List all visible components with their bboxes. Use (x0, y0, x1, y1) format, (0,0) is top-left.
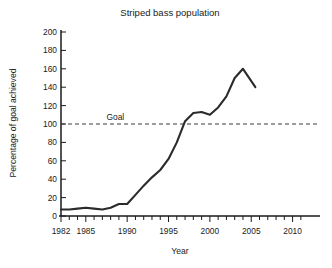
y-tick-label: 20 (48, 193, 58, 203)
y-tick-label: 100 (43, 119, 57, 129)
chart-container: Striped bass population Percentage of go… (0, 0, 332, 268)
x-tick-label: 1982 (52, 226, 71, 236)
y-tick-label: 80 (48, 137, 58, 147)
y-tick-label: 40 (48, 174, 58, 184)
x-tick-label: 1985 (76, 226, 95, 236)
x-tick-label: 1995 (159, 226, 178, 236)
y-tick-label: 160 (43, 64, 57, 74)
goal-line-label: Goal (106, 112, 124, 122)
striped-bass-population-line-chart: Striped bass population Percentage of go… (0, 0, 332, 268)
x-tick-label: 1990 (118, 226, 137, 236)
y-tick-label: 60 (48, 156, 58, 166)
x-axis-title: Year (171, 246, 189, 256)
y-axis-title: Percentage of goal achieved (8, 68, 18, 177)
x-tick-label: 2000 (201, 226, 220, 236)
y-tick-label: 200 (43, 27, 57, 37)
y-tick-label: 0 (52, 211, 57, 221)
chart-title: Striped bass population (120, 7, 219, 18)
x-tick-label: 2010 (283, 226, 302, 236)
x-tick-label: 2005 (242, 226, 261, 236)
y-tick-label: 120 (43, 101, 57, 111)
y-tick-label: 140 (43, 82, 57, 92)
y-tick-label: 180 (43, 45, 57, 55)
